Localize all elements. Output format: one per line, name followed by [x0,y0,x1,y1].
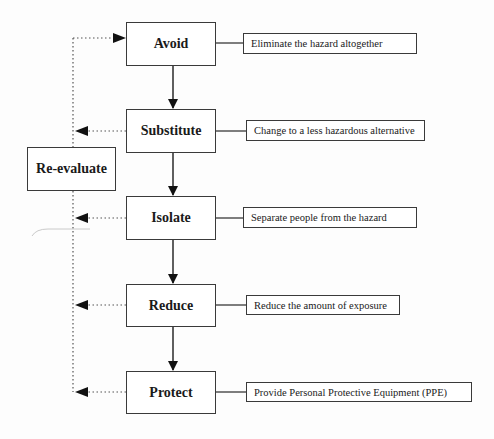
step-isolate: Isolate [126,196,216,240]
re-evaluate-label: Re-evaluate [36,161,107,177]
step-label: Isolate [151,210,191,226]
step-label: Protect [149,385,192,401]
stray-mark [32,229,90,236]
re-evaluate-box: Re-evaluate [27,147,116,191]
description-text: Provide Personal Protective Equipment (P… [254,387,447,398]
description-reduce: Reduce the amount of exposure [246,295,400,315]
description-text: Eliminate the hazard altogether [251,38,382,49]
step-substitute: Substitute [126,109,216,153]
description-isolate: Separate people from the hazard [243,207,417,228]
description-text: Change to a less hazardous alternative [254,125,415,136]
description-text: Separate people from the hazard [251,212,387,223]
step-label: Avoid [154,36,189,52]
hierarchy-of-controls-diagram: Re-evaluate Avoid Substitute Isolate Red… [0,0,494,439]
step-label: Substitute [141,123,202,139]
step-reduce: Reduce [126,284,216,327]
description-substitute: Change to a less hazardous alternative [246,120,425,141]
description-text: Reduce the amount of exposure [254,300,387,311]
description-protect: Provide Personal Protective Equipment (P… [246,382,472,402]
description-connectors [216,43,246,392]
step-label: Reduce [149,298,193,314]
step-protect: Protect [126,371,216,414]
description-avoid: Eliminate the hazard altogether [243,33,417,54]
re-evaluate-feedback-loop [73,38,126,392]
feedback-arrowheads [75,33,126,397]
step-avoid: Avoid [126,22,216,66]
